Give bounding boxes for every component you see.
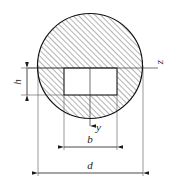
cross-section-drawing: z y h b d: [0, 0, 169, 181]
y-axis-label: y: [95, 121, 101, 133]
d-dimension-label: d: [87, 159, 93, 171]
diameter-dimension-d: d: [38, 159, 143, 173]
b-dimension-label: b: [87, 133, 93, 145]
h-dimension-label: h: [11, 79, 23, 85]
z-axis-label: z: [153, 59, 165, 65]
inner-rectangle-hole: [64, 68, 117, 95]
diagram-root: z y h b d: [0, 0, 169, 181]
height-dimension: h: [11, 68, 27, 95]
width-dimension-b: b: [64, 133, 117, 147]
